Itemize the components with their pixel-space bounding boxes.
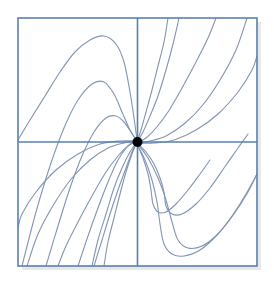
origin-node-marker — [133, 137, 143, 147]
phase-portrait-canvas — [0, 0, 274, 286]
phase-portrait-figure: Square plot frame with horizontal and ve… — [0, 0, 274, 286]
